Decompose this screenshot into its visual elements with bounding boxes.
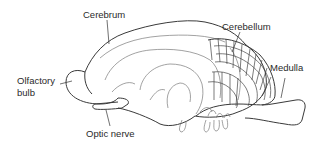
label-medulla: Medulla (270, 62, 303, 73)
brain-diagram: Cerebrum Cerebellum Medulla Olfactory bu… (0, 0, 318, 149)
cerebrum-outline (85, 21, 266, 126)
cerebrum-fold (150, 89, 165, 100)
cerebrum-fold (167, 83, 190, 108)
cerebrum-fold (112, 83, 135, 92)
cerebrum-fold (140, 64, 203, 114)
label-optic-nerve: Optic nerve (86, 128, 135, 139)
cerebrum-fold (100, 35, 225, 58)
medulla-leader (281, 78, 285, 98)
label-olfactory-bulb-line1: Olfactory (17, 75, 55, 86)
label-olfactory-bulb-line2: bulb (17, 87, 35, 98)
optic-nerve-leader (106, 110, 110, 126)
label-cerebellum: Cerebellum (222, 21, 271, 32)
optic-nerve-shape (93, 98, 129, 109)
cerebrum-fold (230, 48, 240, 100)
brainstem-outline (196, 100, 305, 125)
cerebrum-leader (107, 20, 109, 44)
olfactory-bulb-base (85, 72, 92, 94)
pons-lines (200, 108, 230, 119)
olfactory-bulb-outline (66, 70, 118, 104)
label-cerebrum: Cerebrum (83, 9, 125, 20)
cerebrum-fold (105, 49, 221, 98)
